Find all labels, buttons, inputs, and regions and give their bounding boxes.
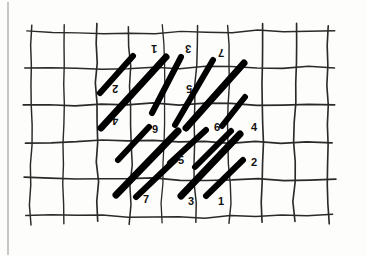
stroke-number-label: 6 bbox=[214, 122, 220, 133]
grid-line-horizontal bbox=[23, 103, 334, 106]
stroke-number-label: 2 bbox=[251, 157, 257, 168]
grid-line-vertical bbox=[261, 24, 263, 223]
grid-line-vertical bbox=[194, 25, 198, 222]
stroke-number-label: 1 bbox=[151, 43, 157, 54]
diagonal-stroke bbox=[222, 97, 245, 126]
grid-line-horizontal bbox=[24, 177, 336, 181]
diagram-svg bbox=[0, 0, 367, 257]
figure-canvas: 13725496452731 bbox=[0, 0, 367, 257]
grid-line-horizontal bbox=[26, 214, 333, 218]
stroke-number-label: 1 bbox=[218, 196, 224, 207]
stroke-number-label: 3 bbox=[188, 196, 194, 207]
stroke-number-label: 9 bbox=[152, 124, 158, 135]
stroke-number-label: 7 bbox=[218, 47, 224, 58]
grid-line-horizontal bbox=[26, 140, 333, 143]
diagonal-stroke bbox=[118, 127, 149, 160]
grid-line-vertical bbox=[29, 25, 32, 225]
grid-line-vertical bbox=[95, 23, 98, 221]
grid-line-vertical bbox=[63, 25, 65, 224]
grid-line-vertical bbox=[327, 26, 329, 224]
grid-line-vertical bbox=[228, 25, 231, 223]
stroke-number-label: 5 bbox=[186, 83, 192, 94]
stroke-number-label: 5 bbox=[178, 155, 184, 166]
diagonal-stroke-group bbox=[100, 56, 245, 197]
stroke-number-label: 3 bbox=[185, 43, 191, 54]
stroke-number-label: 7 bbox=[143, 194, 149, 205]
stroke-number-label: 4 bbox=[251, 122, 257, 133]
stroke-number-label: 2 bbox=[112, 83, 118, 94]
grid-line-vertical bbox=[293, 23, 297, 221]
grid-line-horizontal bbox=[27, 30, 335, 34]
stroke-number-label: 4 bbox=[112, 115, 118, 126]
grid-line-horizontal bbox=[25, 66, 335, 69]
